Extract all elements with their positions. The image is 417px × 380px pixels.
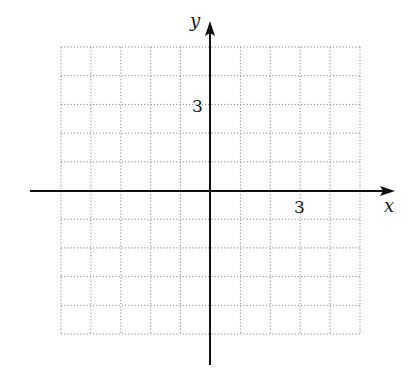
x-axis-label: x bbox=[384, 195, 394, 216]
x-tick-label-3: 3 bbox=[294, 197, 305, 217]
y-axis-label: y bbox=[189, 10, 201, 31]
coordinate-plane: x y 3 3 bbox=[0, 0, 417, 380]
y-tick-label-3: 3 bbox=[192, 96, 203, 116]
axes bbox=[30, 21, 395, 365]
